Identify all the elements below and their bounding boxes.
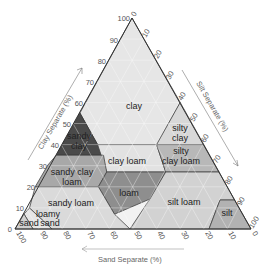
soil-texture-triangle: clay sandy clay silty clay clay loam sil… xyxy=(0,0,269,267)
label-silt: silt xyxy=(222,208,233,218)
sand-axis-ticks: 100 90 80 70 60 50 40 30 20 10 0 xyxy=(14,230,260,245)
svg-text:100: 100 xyxy=(247,215,261,230)
svg-text:0: 0 xyxy=(250,230,260,238)
label-silty-clay-loam-2: clay loam xyxy=(162,156,200,166)
label-sandy-loam: sandy loam xyxy=(48,198,94,208)
svg-text:50: 50 xyxy=(132,230,144,242)
label-silty-clay-2: clay xyxy=(172,133,189,143)
label-sandy-clay-loam-2: loam xyxy=(62,177,82,187)
label-silt-loam: silt loam xyxy=(167,197,200,207)
svg-text:90: 90 xyxy=(110,36,118,45)
label-clay: clay xyxy=(126,101,143,111)
svg-text:10: 10 xyxy=(16,204,24,213)
svg-text:20: 20 xyxy=(27,183,35,192)
label-sandy-clay-loam-1: sandy clay xyxy=(51,167,94,177)
label-silty-clay-1: silty xyxy=(172,123,188,133)
svg-text:80: 80 xyxy=(98,57,106,66)
svg-text:40: 40 xyxy=(155,230,167,242)
sand-axis-title: Sand Separate (%) xyxy=(82,246,184,264)
label-sandy-clay-1: sandy xyxy=(67,131,92,141)
label-sandy-clay-2: clay xyxy=(71,141,88,151)
svg-text:20: 20 xyxy=(203,230,215,242)
svg-text:10: 10 xyxy=(226,230,238,242)
svg-text:0: 0 xyxy=(129,10,139,18)
label-loam: loam xyxy=(119,188,139,198)
svg-text:40: 40 xyxy=(51,141,59,150)
svg-text:100: 100 xyxy=(14,230,28,245)
svg-text:Sand Separate (%): Sand Separate (%) xyxy=(98,255,162,264)
svg-text:60: 60 xyxy=(75,99,83,108)
svg-text:100: 100 xyxy=(117,14,130,23)
svg-text:50: 50 xyxy=(63,120,71,129)
svg-text:80: 80 xyxy=(61,230,73,242)
svg-text:0: 0 xyxy=(8,225,12,234)
svg-text:90: 90 xyxy=(38,230,50,242)
svg-text:Silt Separate (%): Silt Separate (%) xyxy=(194,80,230,134)
label-silty-clay-loam-1: silty xyxy=(173,146,189,156)
svg-text:70: 70 xyxy=(85,230,97,242)
svg-text:30: 30 xyxy=(179,230,191,242)
label-clay-loam: clay loam xyxy=(108,156,146,166)
svg-text:30: 30 xyxy=(39,162,47,171)
svg-text:70: 70 xyxy=(86,78,94,87)
svg-text:60: 60 xyxy=(108,230,120,242)
label-loamy-sand-2: sand xyxy=(40,218,60,228)
label-sand: sand xyxy=(19,218,39,228)
